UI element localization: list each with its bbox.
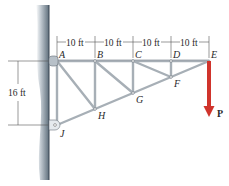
truss-diagram: 10 ft 10 ft 10 ft 10 ft 16 ft (0, 0, 229, 186)
horizontal-dimension-labels: 10 ft 10 ft 10 ft 10 ft (66, 38, 198, 48)
load-label-P: P (217, 108, 223, 119)
wall (36, 5, 49, 180)
label-F: F (173, 78, 181, 89)
label-C: C (135, 49, 142, 60)
support-A (49, 56, 58, 66)
dim-label-4: 10 ft (180, 38, 198, 48)
dim-label-3: 10 ft (142, 38, 160, 48)
label-J: J (60, 128, 65, 139)
label-H: H (97, 110, 106, 121)
dim-label-1: 10 ft (66, 38, 84, 48)
label-B: B (97, 49, 103, 60)
label-D: D (172, 49, 181, 60)
vertical-dim-label: 16 ft (8, 88, 26, 98)
support-J (49, 120, 60, 130)
dim-label-2: 10 ft (104, 38, 122, 48)
label-G: G (136, 94, 143, 105)
load-arrow (204, 61, 215, 117)
label-A: A (58, 49, 66, 60)
label-E: E (210, 49, 217, 60)
